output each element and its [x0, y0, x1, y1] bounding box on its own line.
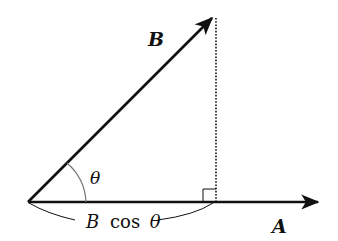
vector-b-label: B [147, 28, 164, 50]
angle-theta-label: θ [90, 168, 100, 188]
projection-label-theta: θ [150, 211, 161, 232]
vector-b-line [28, 18, 212, 202]
projection-brace-left [29, 203, 75, 220]
projection-label-b: B [85, 211, 99, 232]
vector-a-label: A [270, 215, 287, 237]
angle-arc [67, 163, 86, 202]
projection-brace-right [158, 203, 213, 220]
projection-label-cos: cos [110, 211, 140, 232]
vector-projection-diagram: B A θ B cos θ [0, 0, 338, 241]
right-angle-marker [203, 189, 216, 202]
projection-label: B cos θ [85, 211, 161, 232]
